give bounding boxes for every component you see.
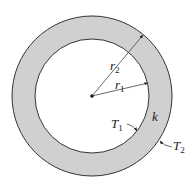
- t2-label: T2: [173, 138, 185, 155]
- k-label: k: [152, 109, 158, 124]
- t2-leader: [160, 141, 172, 147]
- shell-diagram: r2 r1 k T1 T2: [0, 0, 192, 185]
